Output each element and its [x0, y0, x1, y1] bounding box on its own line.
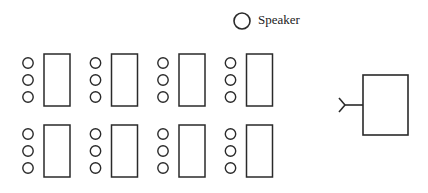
seat-icon [90, 146, 100, 156]
podium [339, 75, 408, 135]
speaker-label: Speaker [258, 12, 300, 28]
seat-icon [225, 146, 235, 156]
seat-icon [23, 75, 33, 85]
seat-icon [225, 58, 235, 68]
speaker-marker [234, 13, 250, 29]
seat-icon [23, 58, 33, 68]
seat-icon [90, 75, 100, 85]
seat-icon [23, 163, 33, 173]
table [44, 54, 70, 106]
table [179, 54, 205, 106]
seat-icon [225, 92, 235, 102]
table [44, 125, 70, 177]
table-group [23, 54, 70, 106]
seat-icon [225, 75, 235, 85]
seat-icon [90, 58, 100, 68]
seat-icon [158, 75, 168, 85]
table-group [23, 125, 70, 177]
seat-icon [90, 163, 100, 173]
table-groups [23, 54, 273, 177]
table-group [225, 54, 272, 106]
seat-icon [158, 163, 168, 173]
seat-icon [90, 92, 100, 102]
microphone-head-lower [339, 105, 345, 112]
seat-icon [225, 163, 235, 173]
seat-icon [158, 146, 168, 156]
seat-icon [23, 129, 33, 139]
table-group [90, 54, 137, 106]
table-group [225, 125, 272, 177]
table [247, 125, 273, 177]
table [179, 125, 205, 177]
seat-icon [23, 146, 33, 156]
seat-icon [158, 58, 168, 68]
table-group [90, 125, 137, 177]
seat-icon [158, 129, 168, 139]
table-group [158, 125, 205, 177]
speaker-icon [234, 13, 250, 29]
table [112, 125, 138, 177]
table [247, 54, 273, 106]
microphone-head-upper [339, 98, 345, 105]
seat-icon [225, 129, 235, 139]
seat-icon [23, 92, 33, 102]
table-group [158, 54, 205, 106]
seat-icon [90, 129, 100, 139]
table [112, 54, 138, 106]
seat-icon [158, 92, 168, 102]
seating-diagram [0, 0, 428, 193]
podium-box [363, 75, 408, 135]
